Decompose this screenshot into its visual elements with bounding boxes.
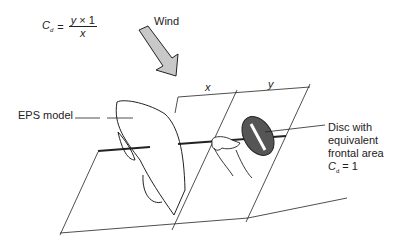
formula-denominator: x bbox=[80, 27, 86, 39]
disc-label: Disc with equivalent frontal area Cd = 1 bbox=[328, 121, 384, 178]
eps-model-label: EPS model bbox=[18, 109, 73, 122]
disc-label-line1: Disc with bbox=[328, 121, 384, 134]
formula-equals: = bbox=[57, 21, 63, 33]
wind-arrow-icon bbox=[139, 26, 178, 76]
drag-coefficient-formula: Cd = y × 1 x bbox=[42, 14, 97, 39]
wind-label: Wind bbox=[154, 15, 179, 28]
leader-lines bbox=[75, 118, 325, 132]
dimension-x-label: x bbox=[205, 81, 211, 93]
disc-label-line3: frontal area bbox=[328, 147, 384, 160]
formula-fraction: y × 1 x bbox=[69, 14, 97, 39]
disc-label-line2: equivalent bbox=[328, 134, 384, 147]
formula-numerator: y × 1 bbox=[69, 14, 97, 27]
disc-label-cd: Cd = 1 bbox=[328, 160, 384, 178]
dimension-y-label: y bbox=[268, 78, 274, 90]
ground-plane bbox=[60, 84, 347, 235]
formula-lhs: Cd bbox=[42, 19, 53, 33]
